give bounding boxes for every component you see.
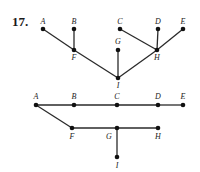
- node-F: [70, 126, 75, 131]
- node-C: [115, 103, 120, 108]
- node-label-B: B: [72, 92, 77, 101]
- edge-A-F: [36, 105, 72, 128]
- node-label-C: C: [117, 17, 123, 26]
- node-label-H: H: [154, 132, 162, 141]
- node-E: [181, 103, 186, 108]
- node-B: [72, 27, 77, 32]
- node-G: [116, 48, 121, 53]
- node-C: [118, 27, 123, 32]
- edge-D-H: [157, 29, 158, 50]
- graph-2: ABCDEFGHI: [33, 92, 186, 170]
- node-label-I: I: [116, 81, 120, 90]
- node-B: [72, 103, 77, 108]
- node-label-A: A: [33, 92, 39, 101]
- edge-I-H: [118, 50, 157, 78]
- node-label-I: I: [115, 161, 119, 170]
- node-label-H: H: [153, 53, 161, 62]
- node-label-G: G: [115, 37, 121, 46]
- node-G: [115, 126, 120, 131]
- node-label-F: F: [71, 53, 77, 62]
- node-I: [115, 155, 120, 160]
- node-label-E: E: [180, 17, 186, 26]
- node-H: [156, 126, 161, 131]
- node-A: [34, 103, 39, 108]
- edge-C-H: [120, 29, 157, 50]
- edge-E-H: [157, 29, 183, 50]
- node-label-D: D: [154, 92, 161, 101]
- node-H: [155, 48, 160, 53]
- node-I: [116, 76, 121, 81]
- node-label-D: D: [154, 17, 161, 26]
- node-label-C: C: [114, 92, 120, 101]
- node-F: [72, 48, 77, 53]
- node-label-A: A: [40, 17, 46, 26]
- node-label-E: E: [180, 92, 186, 101]
- node-label-G: G: [106, 132, 112, 141]
- edge-F-I: [74, 50, 118, 78]
- graph-diagrams: ABCDEFGHIABCDEFGHI: [0, 0, 200, 172]
- node-D: [156, 103, 161, 108]
- node-label-B: B: [72, 17, 77, 26]
- node-A: [41, 27, 46, 32]
- node-E: [181, 27, 186, 32]
- node-label-F: F: [69, 132, 75, 141]
- graph-1: ABCDEFGHI: [40, 17, 186, 90]
- node-D: [156, 27, 161, 32]
- edge-A-F: [43, 29, 74, 50]
